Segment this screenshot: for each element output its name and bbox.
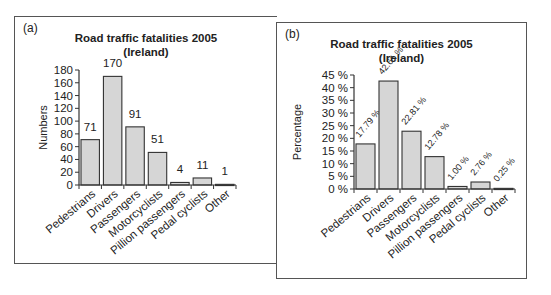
bar	[402, 131, 421, 189]
y-tick-label: 30 %	[322, 107, 348, 119]
y-axis-label: Numbers	[37, 105, 49, 150]
bar-value-label: 91	[129, 108, 142, 120]
bar-value-label: 22.81 %	[399, 95, 428, 127]
bar-value-label: 1.00 %	[445, 154, 471, 182]
bar	[81, 140, 99, 185]
y-tick-label: 5 %	[328, 170, 348, 182]
y-tick-label: 35 %	[322, 94, 348, 106]
y-tick-label: 120	[54, 102, 73, 114]
y-tick-label: 15 %	[322, 145, 348, 157]
y-tick-label: 45 %	[322, 69, 348, 81]
y-tick-label: 25 %	[322, 120, 348, 132]
bar	[356, 144, 375, 189]
y-tick-label: 40	[60, 153, 73, 165]
bar-chart-percentage: Percentage0 %5 %10 %15 %20 %25 %30 %35 %…	[277, 23, 526, 278]
bar-value-label: 2.76 %	[468, 149, 494, 177]
y-tick-label: 60	[60, 141, 73, 153]
y-tick-label: 10 %	[322, 158, 348, 170]
bar	[126, 127, 144, 185]
bar-value-label: 170	[103, 57, 122, 69]
bar-value-label: 12.78 %	[422, 120, 451, 152]
bar-value-label: 17.79 %	[353, 107, 382, 139]
bar-chart-numbers: Numbers02040608010012014016018071Pedestr…	[15, 17, 277, 263]
y-tick-label: 180	[54, 64, 73, 76]
y-tick-label: 20	[60, 166, 73, 178]
x-category-label: Other	[481, 191, 511, 219]
bar-value-label: 4	[177, 163, 184, 175]
bar-value-label: 42.61 %	[376, 45, 405, 77]
y-tick-label: 160	[54, 77, 73, 89]
bar	[379, 81, 398, 189]
bar-value-label: 71	[84, 121, 97, 133]
y-tick-label: 80	[60, 128, 73, 140]
y-tick-label: 20 %	[322, 132, 348, 144]
y-tick-label: 140	[54, 90, 73, 102]
bar	[425, 157, 444, 189]
y-axis-label: Percentage	[291, 104, 303, 160]
chart-panel-b: (b) Road traffic fatalities 2005 (Irelan…	[276, 22, 527, 279]
bar-value-label: 11	[196, 159, 208, 171]
bar-value-label: 0.25 %	[491, 156, 517, 184]
y-tick-label: 0 %	[328, 183, 348, 195]
x-category-label: Other	[202, 187, 232, 215]
y-tick-label: 100	[54, 115, 73, 127]
chart-panel-a: (a) Road traffic fatalities 2005 (Irelan…	[14, 16, 277, 264]
bar	[471, 182, 490, 189]
y-tick-label: 40 %	[322, 82, 348, 94]
bar	[148, 152, 166, 185]
bar	[103, 76, 121, 185]
y-tick-label: 0	[67, 179, 73, 191]
bar	[193, 178, 211, 185]
bar-value-label: 51	[151, 133, 164, 145]
bar-value-label: 1	[222, 165, 228, 177]
